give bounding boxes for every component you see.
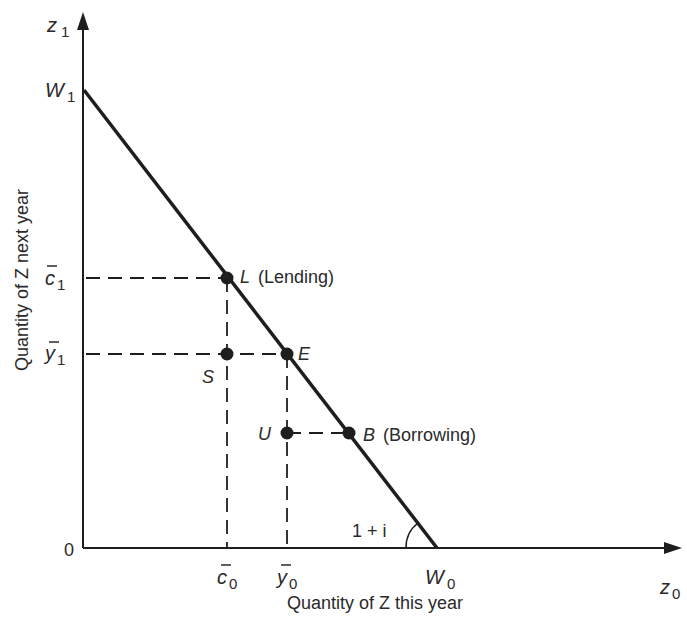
slope-label: 1 + i [352,521,387,541]
svg-text:c1: c1 [45,267,65,293]
dashed-guides [86,278,349,548]
svg-text:y0: y0 [275,566,297,592]
c1-tick-label: c1 [45,266,65,293]
y-axis-symbol: z1 [46,14,69,40]
y-axis-arrow-icon [77,12,89,30]
budget-line [84,90,437,548]
slope-angle-arc [406,523,418,548]
point-u-label: U [258,424,272,444]
x-axis-arrow-icon [664,542,682,554]
svg-text:y1: y1 [43,342,65,368]
y1-tick-label: y1 [43,342,65,368]
point-b [343,427,356,440]
point-l-label: L(Lending) [240,267,334,287]
y-axis-title: Quantity of Z next year [12,189,32,371]
point-s [221,348,234,361]
point-e-label: E [298,344,311,364]
w1-label: W1 [45,79,75,105]
origin-label: 0 [64,540,74,560]
point-l [221,272,234,285]
x-axis-symbol: z0 [659,576,680,602]
point-b-label: B(Borrowing) [363,425,476,445]
x-axis-title: Quantity of Z this year [287,593,463,613]
c0-tick-label: c0 [217,565,237,592]
point-u [281,427,294,440]
budget-line-diagram: z1 z0 0 W1 W0 1 + i c1 y1 c0 y0 L(Lendin… [0,0,687,627]
svg-text:c0: c0 [217,566,237,592]
point-e [281,348,294,361]
y0-tick-label: y0 [275,565,297,592]
point-s-label: S [202,367,214,387]
w0-label: W0 [425,566,455,592]
